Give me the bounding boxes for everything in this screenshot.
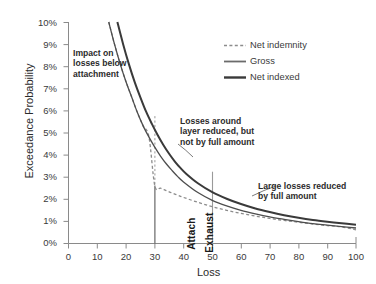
x-tick-label: 10: [84, 251, 110, 262]
marker-label-exhaust: Exhaust: [204, 213, 215, 284]
annotation-line: Impact on: [73, 48, 127, 58]
exceedance-probability-chart: 10% 9% 8% 7% 6% 5% 4% 3% 2% 1% 0% 0 10 2…: [0, 0, 376, 284]
legend-label-gross: Gross: [250, 56, 275, 66]
legend-label-net-indemnity: Net indemnity: [250, 40, 307, 50]
legend-label-net-indexed: Net indexed: [250, 72, 300, 82]
x-tick-label: 30: [142, 251, 168, 262]
y-axis-title-wrapper: Exceedance Probability: [19, 41, 37, 201]
x-tick-label: 80: [286, 251, 312, 262]
annotation-line: attachment: [73, 69, 127, 79]
annotation-line: not by full amount: [180, 137, 254, 147]
annotation-line: by full amount: [258, 191, 346, 201]
y-tick-label: 0%: [27, 237, 57, 248]
annotation-line: losses below: [73, 58, 127, 68]
annotation-line: Losses around: [180, 116, 254, 126]
y-axis-ticks: [64, 23, 69, 244]
y-tick-label: 10%: [27, 17, 57, 28]
legend-swatches: [224, 46, 246, 78]
y-axis-title: Exceedance Probability: [23, 64, 35, 179]
annotation-impact-below-attachment: Impact on losses below attachment: [73, 48, 127, 79]
x-tick-label: 20: [113, 251, 139, 262]
x-tick-label: 100: [343, 251, 369, 262]
annotation-line: layer reduced, but: [180, 126, 254, 136]
annotation-losses-around-layer: Losses around layer reduced, but not by …: [180, 116, 254, 147]
y-tick-label: 1%: [27, 215, 57, 226]
annotation-line: Large losses reduced: [258, 181, 346, 191]
x-tick-label: 90: [315, 251, 341, 262]
x-tick-label: 70: [257, 251, 283, 262]
annotation-large-losses-reduced: Large losses reduced by full amount: [258, 181, 346, 202]
x-tick-label: 0: [56, 251, 82, 262]
x-tick-label: 60: [228, 251, 254, 262]
marker-label-attach: Attach: [186, 218, 197, 284]
